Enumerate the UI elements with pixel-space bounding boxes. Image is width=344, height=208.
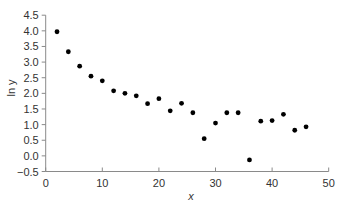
data-point: [111, 88, 116, 93]
data-point: [123, 91, 128, 96]
scatter-chart: −0.50.00.51.01.52.02.53.03.54.04.5 01020…: [0, 0, 344, 208]
data-points: [55, 29, 309, 162]
data-point: [236, 110, 241, 115]
y-tick-label: 1.0: [23, 119, 38, 131]
y-tick-label: 3.5: [23, 40, 38, 52]
data-point: [281, 112, 286, 117]
y-tick-label: 4.0: [23, 25, 38, 37]
data-point: [168, 108, 173, 113]
data-point: [134, 93, 139, 98]
data-point: [157, 96, 162, 101]
x-tick-label: 10: [96, 177, 108, 189]
x-axis: 01020304050: [43, 168, 335, 189]
x-tick-label: 20: [153, 177, 165, 189]
data-point: [202, 136, 207, 141]
y-tick-label: 2.5: [23, 72, 38, 84]
y-tick-label: 3.0: [23, 56, 38, 68]
x-axis-label: x: [187, 190, 194, 202]
y-axis: −0.50.00.51.01.52.02.53.03.54.04.5: [17, 9, 46, 177]
data-point: [224, 110, 229, 115]
x-tick-label: 0: [43, 177, 49, 189]
data-point: [100, 78, 105, 83]
x-tick-label: 30: [209, 177, 221, 189]
y-tick-label: 1.5: [23, 103, 38, 115]
data-point: [179, 101, 184, 106]
data-point: [292, 128, 297, 133]
y-tick-label: −0.5: [17, 166, 39, 178]
y-tick-label: 2.0: [23, 87, 38, 99]
data-point: [66, 49, 71, 54]
data-point: [304, 124, 309, 129]
y-tick-label: 4.5: [23, 9, 38, 21]
data-point: [270, 118, 275, 123]
data-point: [213, 121, 218, 126]
data-point: [55, 29, 60, 34]
data-point: [77, 64, 82, 69]
data-point: [145, 101, 150, 106]
data-point: [190, 110, 195, 115]
y-axis-label: ln y: [5, 79, 17, 97]
x-tick-label: 40: [266, 177, 278, 189]
y-tick-label: 0.5: [23, 134, 38, 146]
data-point: [247, 158, 252, 163]
y-tick-label: 0.0: [23, 150, 38, 162]
x-tick-label: 50: [323, 177, 335, 189]
data-point: [89, 74, 94, 79]
data-point: [258, 119, 263, 124]
